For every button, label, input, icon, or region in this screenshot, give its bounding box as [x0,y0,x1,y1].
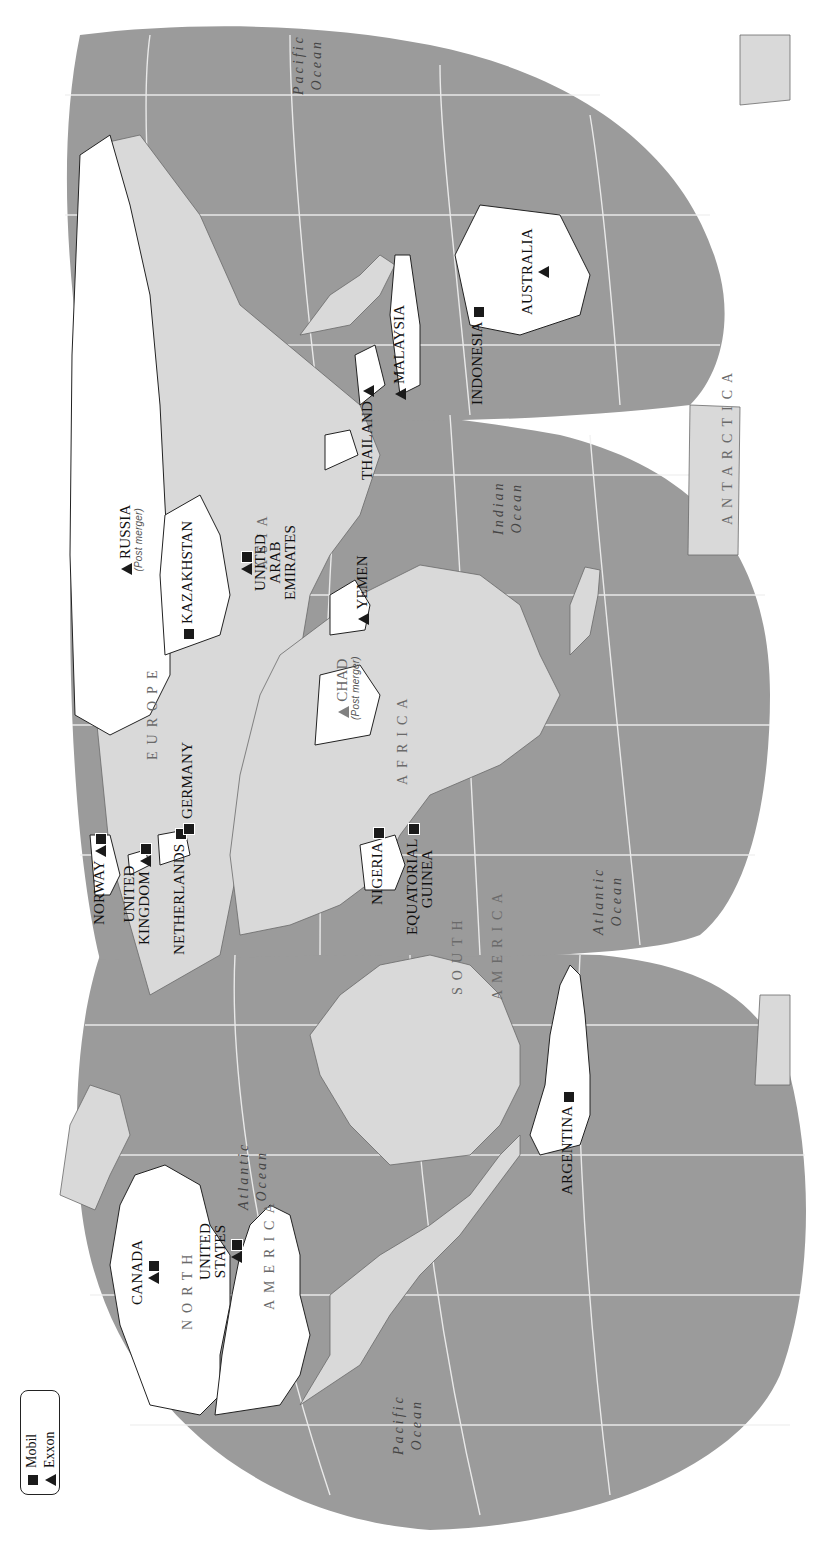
country-name: GERMANY [179,742,195,819]
country-name: RUSSIA [117,504,133,559]
country-name: UNITED [198,1223,213,1280]
legend-item-exxon: Exxon [41,1399,59,1486]
ocean-label-atlantic-south: Atlantic Ocean [590,867,626,935]
country-name: ARGENTINA [559,1107,575,1195]
ocean-word: Pacific [290,34,308,95]
country-chad: CHAD (Post merger) [335,656,361,720]
exxon-marker-icon [395,388,406,400]
country-name: NIGERIA [369,843,385,905]
ocean-word: Ocean [508,480,526,535]
country-australia: AUSTRALIA [520,228,550,315]
continent-label-europe: EUROPE [145,664,160,760]
ocean-word: Pacific [390,1394,408,1455]
ocean-word: Ocean [408,1394,426,1455]
country-malaysia: MALAYSIA [392,305,407,400]
country-canada: CANADA [130,1240,160,1305]
country-yemen: YEMEN [355,555,370,625]
exxon-marker-icon [241,563,252,575]
continent-label-antarctica: ANTARCTICA [720,366,735,525]
exxon-marker-icon [95,845,106,857]
continent-label-africa: AFRICA [395,692,410,785]
mobil-marker-icon [95,833,107,845]
country-name: AUSTRALIA [520,228,535,315]
country-name: THAILAND [359,401,375,480]
legend-label: Mobil [24,1434,39,1468]
mobil-marker-icon [241,551,253,563]
country-nigeria: NIGERIA [370,827,385,905]
mobil-marker-icon [140,843,152,855]
continent-label-south: SOUTH [450,913,465,995]
country-kazakhstan: KAZAKHSTAN [180,521,195,640]
exxon-marker-icon [363,385,374,397]
ocean-label-pacific-west: Pacific Ocean [390,1394,426,1455]
square-marker-icon [27,1474,39,1486]
ocean-word: Ocean [608,867,626,935]
continent-label-south-america: AMERICA [490,886,505,1000]
triangle-marker-icon [45,1474,56,1486]
exxon-marker-icon [148,1272,159,1284]
ocean-word: Atlantic [590,867,608,935]
country-equatorial-guinea: EQUATORIAL GUINEA [405,823,435,935]
ocean-word: Atlantic [235,1142,253,1210]
country-name: NORWAY [91,861,107,925]
mobil-marker-icon [231,1239,243,1251]
exxon-marker-icon [231,1251,242,1263]
country-name: YEMEN [354,555,370,609]
ocean-word: Indian [490,480,508,535]
country-name: CANADA [130,1240,145,1305]
mobil-marker-icon [148,1260,160,1272]
country-uae: UNITED ARAB EMIRATES [238,525,298,600]
antarctica-americas [755,995,790,1085]
exxon-marker-icon [538,266,549,278]
country-name: UNITED [253,525,268,600]
world-map: Mobil Exxon Pacific Ocean Atlantic Ocean… [0,0,819,1555]
country-name: EMIRATES [283,525,298,600]
exxon-marker-icon [140,855,151,867]
country-name: KINGDOM [136,871,152,945]
legend-label: Exxon [42,1431,57,1468]
country-name: MALAYSIA [391,305,407,384]
post-merger-note: (Post merger) [350,656,361,720]
mobil-marker-icon [183,628,195,640]
country-united-kingdom: UNITED KINGDOM [122,843,152,945]
country-name: EQUATORIAL [404,839,420,935]
legend-item-mobil: Mobil [23,1399,41,1486]
antarctica-west [740,35,790,105]
ocean-label-pacific-east: Pacific Ocean [290,34,326,95]
country-russia: RUSSIA (Post merger) [118,504,144,575]
country-netherlands: NETHERLANDS [172,828,187,955]
country-name: ARAB [268,525,283,600]
ocean-label-indian: Indian Ocean [490,480,526,535]
country-germany: GERMANY [180,742,195,835]
country-name: KAZAKHSTAN [179,521,195,624]
mobil-marker-icon [473,306,485,318]
mobil-marker-icon [563,1091,575,1103]
legend: Mobil Exxon [20,1390,60,1495]
continent-label-america: AMERICA [262,1196,277,1310]
country-indonesia: INDONESIA [470,306,485,405]
country-name: CHAD [334,659,350,702]
exxon-post-merger-marker-icon [338,706,349,718]
mobil-marker-icon [373,827,385,839]
country-name: NETHERLANDS [171,844,187,955]
ocean-word: Ocean [308,34,326,95]
country-thailand: THAILAND [360,385,375,480]
mobil-marker-icon [183,823,195,835]
post-merger-note: (Post merger) [133,504,144,575]
exxon-marker-icon [358,613,369,625]
country-argentina: ARGENTINA [560,1091,575,1195]
country-name: INDONESIA [469,322,485,405]
country-norway: NORWAY [92,833,107,925]
mobil-marker-icon [408,823,420,835]
country-united-states: UNITED STATES [198,1223,243,1280]
country-name: STATES [213,1223,228,1280]
country-name: GUINEA [420,823,435,935]
country-name: UNITED [122,843,137,945]
continent-label-north: NORTH [180,1248,195,1330]
exxon-marker-icon [121,563,132,575]
